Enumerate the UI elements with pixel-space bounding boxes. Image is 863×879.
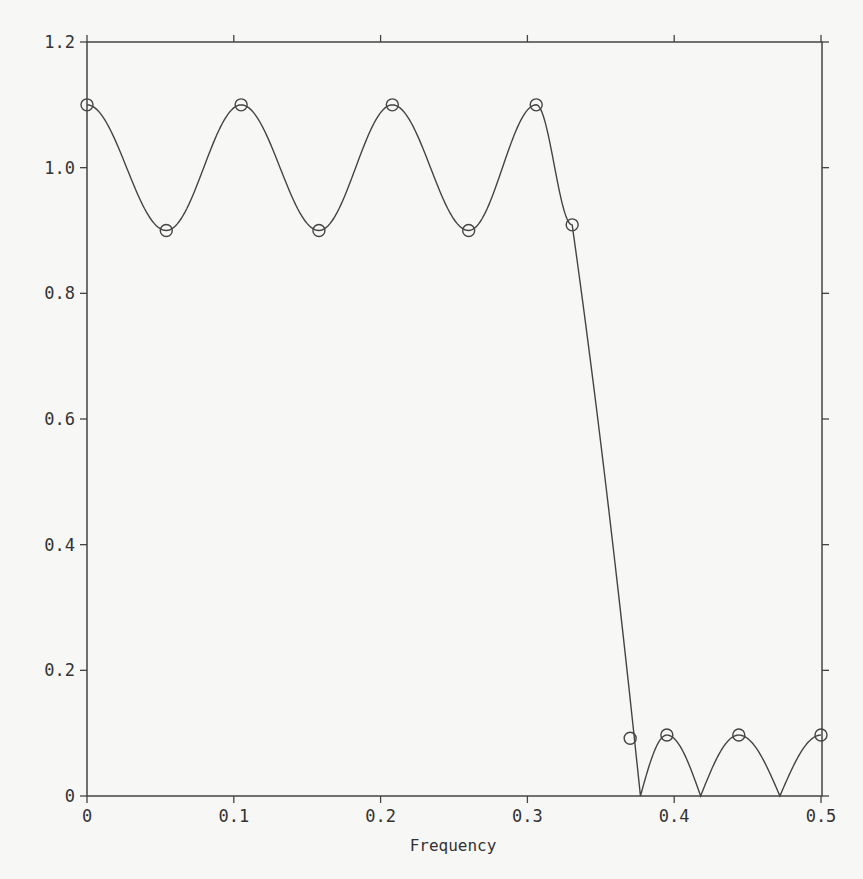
y-tick-label: 0.4	[44, 535, 75, 555]
y-tick-label: 0.8	[44, 283, 75, 303]
x-tick-label: 0	[82, 806, 92, 826]
x-tick-label: 0.4	[659, 806, 690, 826]
x-tick-label: 0.5	[806, 806, 837, 826]
frequency-response-chart: 00.10.20.30.40.500.20.40.60.81.01.2 Freq…	[0, 0, 863, 879]
y-tick-label: 1.2	[44, 32, 75, 52]
x-tick-label: 0.3	[512, 806, 543, 826]
x-tick-label: 0.2	[365, 806, 396, 826]
axis-ticks	[80, 35, 829, 803]
y-tick-label: 0.6	[44, 409, 75, 429]
x-axis-label: Frequency	[410, 836, 497, 855]
response-curve	[87, 105, 821, 796]
x-tick-label: 0.1	[218, 806, 249, 826]
y-tick-label: 1.0	[44, 158, 75, 178]
plot-frame	[87, 42, 822, 796]
tick-labels: 00.10.20.30.40.500.20.40.60.81.01.2	[44, 32, 836, 826]
y-tick-label: 0.2	[44, 660, 75, 680]
y-tick-label: 0	[65, 786, 75, 806]
